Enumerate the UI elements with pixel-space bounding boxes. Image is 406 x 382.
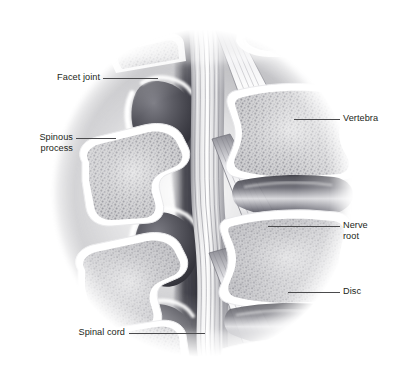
leader-line-vertebra bbox=[294, 119, 340, 120]
figure-root: Facet joint Spinous process Spinal cord … bbox=[0, 0, 406, 382]
label-disc: Disc bbox=[343, 286, 399, 297]
leader-line-disc bbox=[288, 292, 340, 293]
leader-line-spinous-process bbox=[76, 138, 116, 139]
leader-line-facet-joint bbox=[103, 78, 158, 79]
label-facet-joint: Facet joint bbox=[38, 72, 100, 83]
vertebra-1 bbox=[226, 83, 357, 183]
label-spinal-cord: Spinal cord bbox=[63, 327, 125, 338]
leader-line-spinal-cord bbox=[129, 333, 205, 334]
leader-line-nerve-root bbox=[268, 226, 340, 227]
label-vertebra: Vertebra bbox=[343, 113, 399, 124]
label-spinous-process: Spinous process bbox=[18, 132, 73, 155]
label-nerve-root: Nerve root bbox=[343, 220, 399, 243]
vertebra-2 bbox=[219, 210, 358, 310]
